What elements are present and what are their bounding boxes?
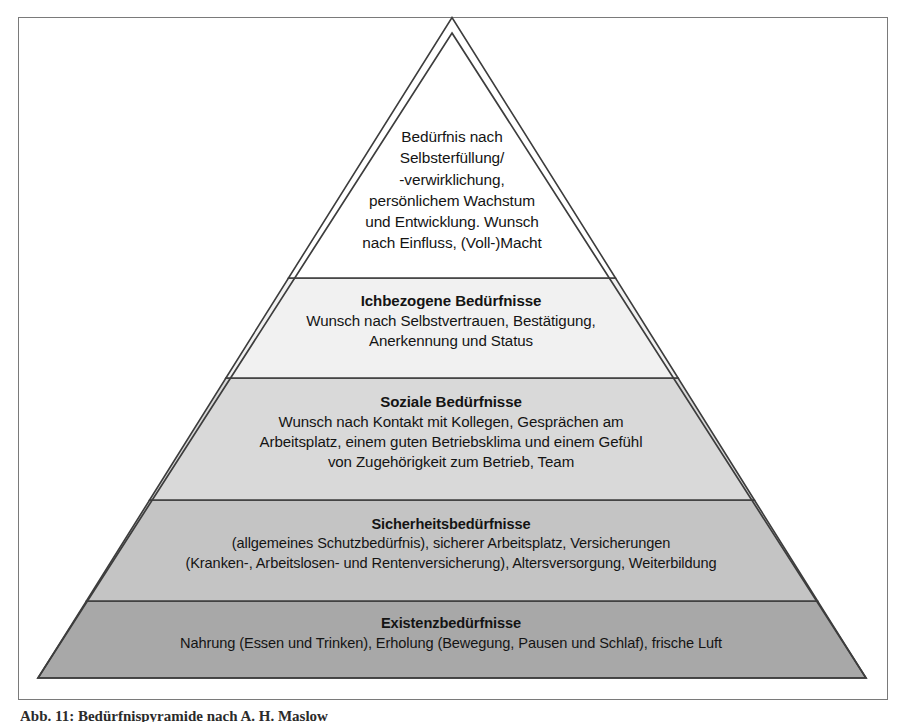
pyramid-band-selbstverwirklichung — [289, 18, 616, 278]
pyramid-band-existenzbeduerfnisse — [38, 601, 866, 678]
pyramid-band-sicherheitsbeduerfnisse — [86, 500, 817, 601]
pyramid-shape — [0, 0, 902, 700]
figure-root: Bedürfnis nach Selbsterfüllung/ -verwirk… — [0, 0, 902, 722]
pyramid-band-ichbezogene-beduerfnisse — [226, 278, 678, 378]
maslow-pyramid-diagram: Bedürfnis nach Selbsterfüllung/ -verwirk… — [0, 0, 902, 700]
figure-caption: Abb. 11: Bedürfnispyramide nach A. H. Ma… — [20, 708, 640, 722]
pyramid-band-soziale-beduerfnisse — [150, 378, 755, 500]
